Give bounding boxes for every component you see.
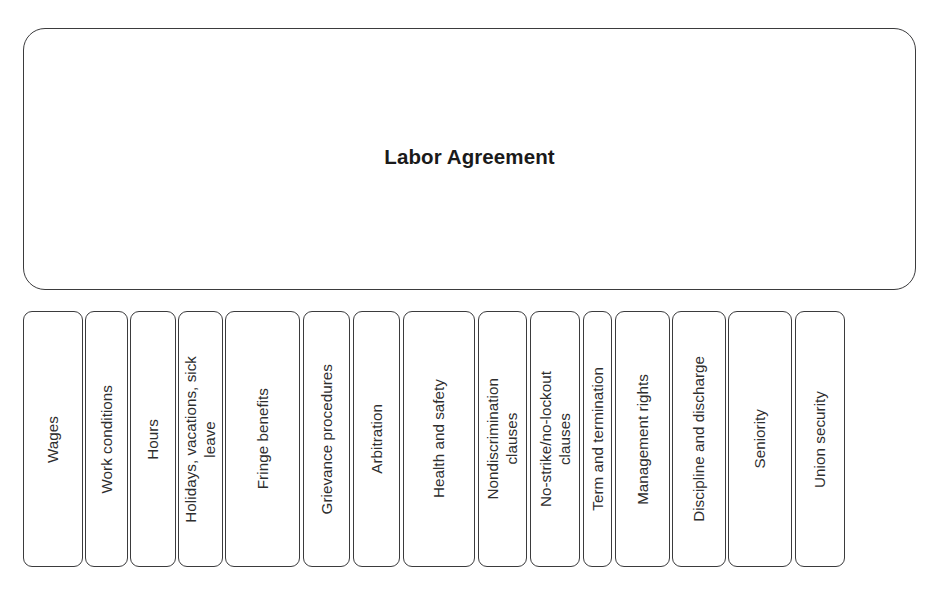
child-node[interactable]: Discipline and discharge [672, 311, 726, 567]
child-node[interactable]: Wages [23, 311, 83, 567]
child-node-label-wrap: Nondiscrimination clauses [479, 312, 526, 566]
child-node[interactable]: Management rights [615, 311, 670, 567]
child-node-label: Term and termination [588, 367, 607, 511]
child-node[interactable]: Seniority [728, 311, 792, 567]
child-node-label: Management rights [633, 374, 652, 505]
child-node-label-wrap: Holidays, vacations, sick leave [179, 312, 222, 566]
child-node-label: Hours [143, 419, 162, 460]
labor-agreement-diagram: Labor Agreement WagesWork conditionsHour… [0, 0, 949, 600]
child-node-label: Fringe benefits [253, 388, 272, 489]
child-node[interactable]: Grievance procedures [303, 311, 350, 567]
child-node-row: WagesWork conditionsHoursHolidays, vacat… [0, 311, 949, 569]
child-node-label-wrap: Union security [796, 312, 844, 566]
child-node[interactable]: Union security [795, 311, 845, 567]
parent-node-title: Labor Agreement [384, 145, 554, 170]
child-node-label-wrap: Management rights [616, 312, 669, 566]
child-node-label: No-strike/no-lockout clauses [536, 371, 575, 507]
child-node[interactable]: Term and termination [583, 311, 612, 567]
child-node-label: Arbitration [367, 404, 386, 474]
child-node-label-wrap: Discipline and discharge [673, 312, 725, 566]
parent-node-labor-agreement: Labor Agreement [23, 28, 916, 290]
child-node-label-wrap: Work conditions [86, 312, 127, 566]
child-node-label-wrap: Seniority [729, 312, 791, 566]
child-node-label: Seniority [750, 409, 769, 469]
child-node-label-wrap: Grievance procedures [304, 312, 349, 566]
child-node[interactable]: Arbitration [353, 311, 400, 567]
child-node-label: Nondiscrimination clauses [483, 378, 522, 500]
child-node-label: Grievance procedures [317, 364, 336, 514]
child-node-label: Health and safety [429, 379, 448, 498]
child-node-label-wrap: Hours [131, 312, 175, 566]
child-node-label-wrap: Health and safety [404, 312, 474, 566]
child-node-label-wrap: Wages [24, 312, 82, 566]
child-node[interactable]: Holidays, vacations, sick leave [178, 311, 223, 567]
child-node-label: Wages [43, 416, 62, 463]
child-node-label: Work conditions [97, 385, 116, 494]
child-node[interactable]: Fringe benefits [225, 311, 300, 567]
child-node-label-wrap: Arbitration [354, 312, 399, 566]
child-node-label: Union security [810, 391, 829, 488]
child-node[interactable]: Health and safety [403, 311, 475, 567]
child-node[interactable]: No-strike/no-lockout clauses [530, 311, 580, 567]
child-node-label-wrap: Fringe benefits [226, 312, 299, 566]
child-node[interactable]: Nondiscrimination clauses [478, 311, 527, 567]
child-node-label-wrap: No-strike/no-lockout clauses [531, 312, 579, 566]
child-node-label-wrap: Term and termination [584, 312, 611, 566]
child-node[interactable]: Work conditions [85, 311, 128, 567]
child-node-label: Holidays, vacations, sick leave [181, 356, 220, 523]
child-node-label: Discipline and discharge [689, 356, 708, 522]
child-node[interactable]: Hours [130, 311, 176, 567]
